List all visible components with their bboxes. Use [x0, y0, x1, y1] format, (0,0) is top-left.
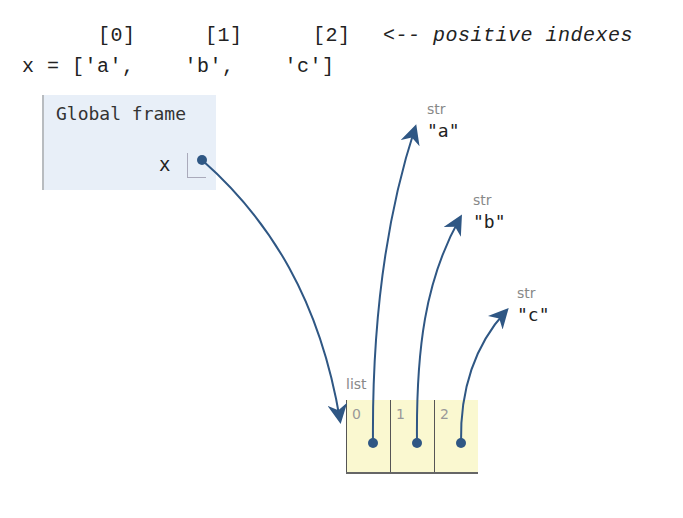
cell0-to-str-a-arrow: [368, 128, 415, 448]
cell1-to-str-b-arrow: [412, 218, 460, 448]
cell2-to-str-c-arrow: [456, 311, 506, 448]
x-to-list-arrow: [197, 155, 340, 420]
pointer-arrows: [0, 0, 683, 518]
